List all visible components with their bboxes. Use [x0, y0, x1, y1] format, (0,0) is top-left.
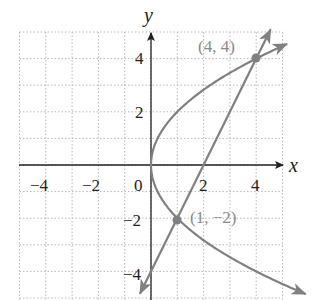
x-tick-2: 2: [199, 176, 208, 195]
y-tick-neg4: −4: [123, 265, 142, 284]
intersection-point-4-4: [252, 54, 261, 63]
x-tick-neg2: −2: [82, 176, 100, 195]
y-tick-neg2: −2: [123, 211, 141, 230]
chart: y x −4 −2 0 2 4 4 2 −2 −4 (4, 4) (1, −2): [0, 0, 315, 300]
intersection-point-1-neg2: [173, 216, 182, 225]
x-tick-neg4: −4: [30, 176, 49, 195]
line-lower-arrow: [140, 186, 193, 293]
x-tick-0: 0: [134, 176, 143, 195]
x-axis-label: x: [288, 154, 298, 176]
point-label-4-4: (4, 4): [198, 37, 235, 56]
point-label-1-neg2: (1, −2): [190, 208, 236, 227]
y-tick-4: 4: [135, 49, 144, 68]
y-tick-2: 2: [135, 103, 144, 122]
y-axis-label: y: [142, 4, 153, 27]
x-tick-4: 4: [251, 176, 260, 195]
